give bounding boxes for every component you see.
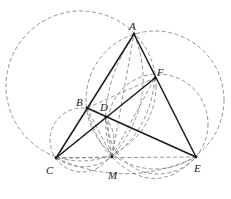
segment-be [87, 108, 196, 157]
label-b: B [76, 96, 83, 108]
segment-ac [56, 34, 134, 158]
segment-mf [112, 78, 155, 157]
arc-am-left [106, 34, 134, 157]
segment-ae [134, 34, 196, 157]
point-b [86, 107, 89, 110]
point-c [55, 157, 58, 160]
point-a [133, 33, 136, 36]
diagram-canvas: A B C D E F M [0, 0, 231, 199]
label-e: E [193, 162, 201, 174]
arc-am-right [112, 34, 143, 157]
point-d [105, 116, 108, 119]
label-a: A [128, 20, 136, 32]
point-e [195, 156, 198, 159]
label-c: C [46, 164, 54, 176]
point-m [111, 156, 114, 159]
arc-me-bottom [112, 157, 196, 179]
label-m: M [107, 169, 118, 181]
label-d: D [99, 101, 108, 113]
point-f [154, 77, 157, 80]
label-f: F [156, 66, 164, 78]
geometry-diagram: A B C D E F M [0, 0, 231, 199]
